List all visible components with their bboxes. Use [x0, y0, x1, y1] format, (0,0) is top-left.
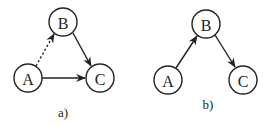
node-label: C — [238, 73, 249, 90]
node-a-C: C — [86, 64, 114, 92]
diagram-b: A B C b) — [154, 10, 257, 112]
caption-a: a) — [58, 105, 68, 120]
edge-b-A-to-B — [176, 36, 197, 68]
node-b-A: A — [154, 66, 182, 94]
edge-a-A-to-B — [36, 34, 54, 66]
diagram-a: A B C a) — [14, 8, 114, 120]
causal-graph-figure: A B C a) A B C b) — [0, 0, 267, 126]
node-a-A: A — [14, 64, 42, 92]
node-label: C — [95, 71, 106, 88]
node-a-B: B — [49, 8, 77, 36]
node-b-C: C — [229, 66, 257, 94]
node-b-B: B — [192, 10, 220, 38]
node-label: A — [162, 73, 174, 90]
node-label: A — [22, 71, 34, 88]
caption-b: b) — [203, 97, 214, 112]
edge-b-B-to-C — [215, 35, 235, 67]
node-label: B — [201, 17, 212, 34]
edge-a-B-to-C — [73, 33, 91, 66]
node-label: B — [58, 15, 69, 32]
